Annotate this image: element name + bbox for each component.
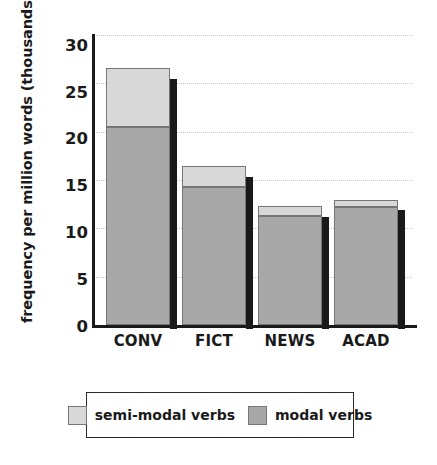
y-axis-title: frequency per million words (thousands) bbox=[19, 33, 36, 323]
y-tick-label-10: 10 bbox=[65, 225, 88, 242]
bar-segment-news-modal[interactable] bbox=[258, 216, 322, 325]
legend-entry-modal[interactable]: modal verbs bbox=[248, 406, 372, 425]
y-axis-line bbox=[92, 34, 95, 326]
bar-shadow-acad bbox=[398, 210, 405, 329]
x-axis-line bbox=[92, 325, 417, 328]
x-tick-label-acad: ACAD bbox=[311, 332, 421, 350]
y-tick-label-25: 25 bbox=[65, 84, 88, 101]
bar-segment-fict-modal[interactable] bbox=[182, 187, 246, 325]
legend-entry-semi-modal[interactable]: semi-modal verbs bbox=[68, 406, 235, 425]
bar-segment-conv-modal[interactable] bbox=[106, 127, 170, 325]
legend-label-modal: modal verbs bbox=[275, 407, 372, 423]
y-tick-label-20: 20 bbox=[65, 131, 88, 148]
y-axis-title-container: frequency per million words (thousands) bbox=[2, 28, 54, 328]
legend-label-semi-modal: semi-modal verbs bbox=[95, 407, 235, 423]
y-tick-label-15: 15 bbox=[65, 178, 88, 195]
bar-news[interactable] bbox=[258, 206, 322, 325]
legend-swatch-modal-icon bbox=[248, 406, 267, 425]
bar-segment-acad-semi-modal[interactable] bbox=[334, 200, 398, 207]
y-tick-label-5: 5 bbox=[77, 272, 88, 289]
bar-segment-acad-modal[interactable] bbox=[334, 207, 398, 325]
plot-area: CONV FICT NEWS ACAD bbox=[92, 35, 412, 325]
bar-segment-fict-semi-modal[interactable] bbox=[182, 166, 246, 187]
bar-conv[interactable] bbox=[106, 68, 170, 325]
bar-acad[interactable] bbox=[334, 200, 398, 325]
y-tick-label-30: 30 bbox=[65, 37, 88, 54]
bar-fict[interactable] bbox=[182, 166, 246, 326]
chart-figure: frequency per million words (thousands) … bbox=[0, 0, 437, 465]
bar-shadow-conv bbox=[170, 79, 177, 329]
bar-shadow-news bbox=[322, 217, 329, 329]
legend-swatch-semi-modal-icon bbox=[68, 406, 87, 425]
bar-shadow-fict bbox=[246, 177, 253, 330]
bar-segment-news-semi-modal[interactable] bbox=[258, 206, 322, 216]
y-axis-tick-labels: 0 5 10 15 20 25 30 bbox=[52, 35, 88, 327]
bar-segment-conv-semi-modal[interactable] bbox=[106, 68, 170, 127]
gridline-30 bbox=[96, 35, 412, 36]
chart-legend: semi-modal verbs modal verbs bbox=[86, 392, 354, 438]
